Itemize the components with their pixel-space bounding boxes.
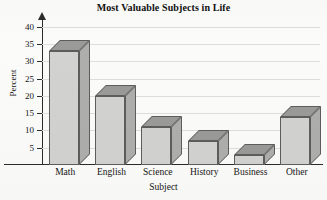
y-axis-tick-label: 20 [14, 92, 34, 101]
bar [280, 117, 310, 165]
bar [49, 51, 79, 165]
plot-area [42, 20, 320, 165]
bar-front-face [141, 127, 171, 165]
bar [234, 155, 264, 165]
y-axis-tick-label: 10 [14, 126, 34, 135]
y-axis-tick-label: 15 [14, 109, 34, 118]
bar-front-face [95, 96, 125, 165]
x-axis-tick-label: Other [274, 167, 320, 178]
x-axis-title: Subject [0, 182, 327, 192]
bar-side-face [125, 85, 136, 165]
bar-front-face [49, 51, 79, 165]
chart-title: Most Valuable Subjects in Life [0, 2, 327, 13]
x-axis-tick-label: Science [135, 167, 181, 178]
x-axis-tick-label: Math [42, 167, 88, 178]
y-axis-tick-label: 5 [14, 144, 34, 153]
bar [188, 141, 218, 165]
x-axis-tick-label: English [88, 167, 134, 178]
bar-front-face [234, 155, 264, 165]
gridline [42, 27, 320, 28]
x-axis-tick-label: Business [227, 167, 273, 178]
bar [95, 96, 125, 165]
bar-front-face [188, 141, 218, 165]
bar-side-face [79, 40, 90, 165]
x-axis-tick-label: History [181, 167, 227, 178]
y-axis-tick-label: 40 [14, 23, 34, 32]
y-axis-tick-label: 30 [14, 57, 34, 66]
y-axis-tick-label: 35 [14, 40, 34, 49]
bar-front-face [280, 117, 310, 165]
y-axis-tick-label: 25 [14, 75, 34, 84]
bar [141, 127, 171, 165]
chart-figure: Most Valuable Subjects in Life Percent 5… [0, 0, 327, 200]
